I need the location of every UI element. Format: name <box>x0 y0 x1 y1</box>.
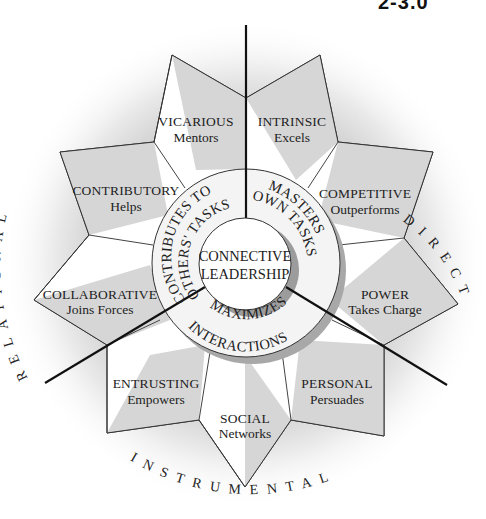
style-title: COMPETITIVE <box>319 186 411 201</box>
style-subtitle: Empowers <box>127 392 185 407</box>
style-subtitle: Excels <box>274 130 310 145</box>
style-subtitle: Helps <box>110 199 142 214</box>
center-title-line1: CONNECTIVE <box>199 248 292 264</box>
connective-leadership-diagram: CONNECTIVE LEADERSHIP CONTRIBUTES TO OTH… <box>0 0 486 519</box>
style-subtitle: Outperforms <box>331 202 400 217</box>
style-subtitle: Takes Charge <box>348 302 421 317</box>
style-subtitle: Persuades <box>310 392 364 407</box>
style-title: POWER <box>361 287 409 302</box>
style-title: VICARIOUS <box>158 114 233 129</box>
center-title-line2: LEADERSHIP <box>201 266 290 282</box>
style-title: ENTRUSTING <box>113 376 200 391</box>
style-title: CONTRIBUTORY <box>72 183 179 198</box>
style-title: INTRINSIC <box>258 114 327 129</box>
style-title: SOCIAL <box>220 411 270 426</box>
style-subtitle: Networks <box>219 426 272 441</box>
style-subtitle: Mentors <box>174 130 219 145</box>
style-subtitle: Joins Forces <box>66 302 133 317</box>
style-title: PERSONAL <box>301 376 372 391</box>
style-title: COLLABORATIVE <box>43 287 157 302</box>
